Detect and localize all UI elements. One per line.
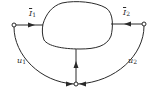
- two-port-network-diagram: [0, 0, 154, 94]
- current-2-arrow-icon: [124, 22, 131, 27]
- current-1-arrow-icon: [28, 23, 35, 28]
- current-2-label: I2: [123, 9, 130, 17]
- voltage-1-label: u1: [17, 57, 26, 65]
- common-link-arrow-icon: [74, 61, 79, 68]
- network-blob: [42, 2, 112, 49]
- voltage-2-arrow-icon: [79, 82, 86, 87]
- terminal-1: [12, 23, 16, 27]
- current-1-label: I1: [29, 10, 36, 18]
- voltage-2-label: u2: [128, 57, 137, 65]
- terminal-2: [142, 22, 146, 26]
- voltage-1-arrow-icon: [66, 82, 73, 87]
- voltage-1-arc: [14, 27, 74, 84]
- common-node: [74, 82, 78, 86]
